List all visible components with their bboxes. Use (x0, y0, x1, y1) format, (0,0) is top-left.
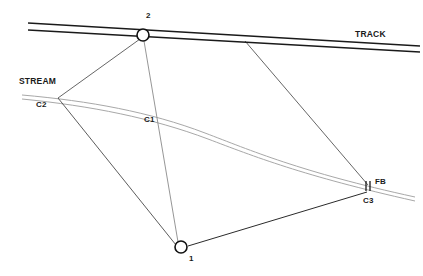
station-nodes (137, 29, 187, 253)
stream-bank-upper (22, 95, 415, 197)
survey-line-network (58, 39, 368, 246)
chainage-c2-label: C2 (36, 101, 47, 109)
station-1-label: 1 (189, 255, 194, 263)
chainage-c1-label: C1 (144, 116, 155, 124)
chainage-c3-label: C3 (363, 197, 374, 205)
survey-line-track-to-fb (245, 41, 368, 185)
station-node-1[interactable] (175, 241, 187, 253)
stream-label: STREAM (19, 77, 56, 86)
survey-line-2-to-c2 (58, 39, 140, 98)
survey-line-1-to-c3 (188, 192, 367, 246)
stream-feature (22, 95, 415, 201)
survey-diagram-canvas: TRACK STREAM C2 C1 C3 FB 1 2 (0, 0, 423, 276)
stream-bank-lower (22, 99, 415, 201)
footbridge-label: FB (375, 178, 386, 186)
track-label: TRACK (355, 30, 386, 39)
station-node-2[interactable] (137, 29, 149, 41)
diagram-svg (0, 0, 423, 276)
station-2-label: 2 (146, 12, 151, 20)
survey-line-c2-to-1 (58, 98, 176, 245)
